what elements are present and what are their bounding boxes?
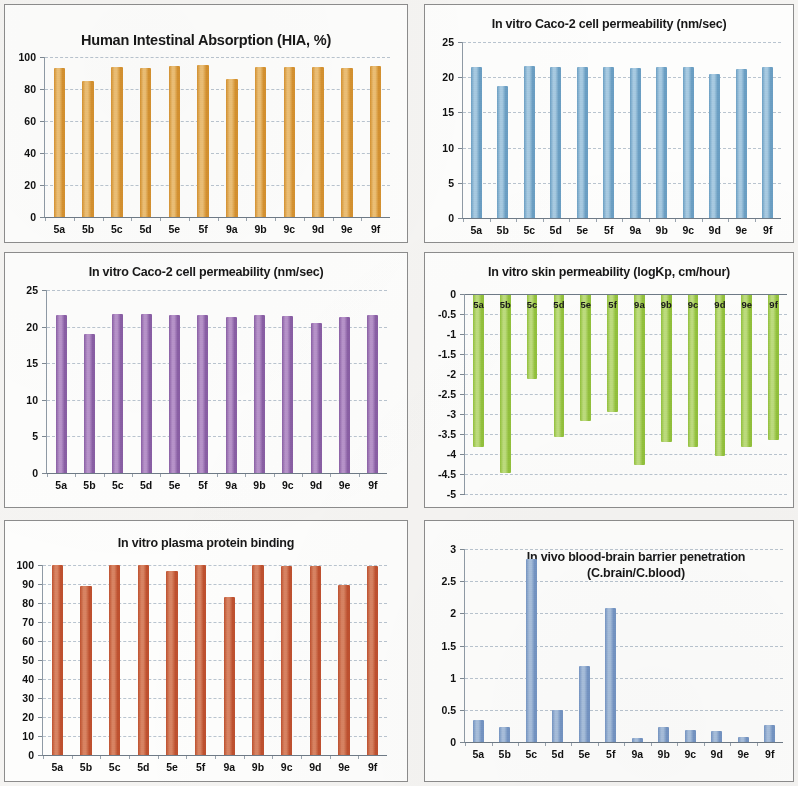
bar-texture — [80, 586, 91, 755]
gridline — [43, 584, 387, 585]
bar — [140, 68, 152, 217]
bar-texture — [762, 67, 773, 218]
bar-texture — [661, 294, 672, 442]
bar-texture — [741, 294, 752, 447]
panel-caco2-purple: In vitro Caco-2 cell permeability (nm/se… — [4, 252, 408, 508]
y-axis-tick-label: 1 — [424, 672, 456, 684]
gridline — [463, 148, 781, 149]
bar-texture — [605, 608, 616, 742]
y-tickmark — [460, 494, 465, 495]
y-axis-tick-label: -2.5 — [424, 388, 456, 400]
bar — [138, 565, 149, 755]
y-axis-tick-label: -4.5 — [424, 468, 456, 480]
bar-texture — [709, 74, 720, 218]
bar-texture — [311, 323, 322, 473]
bar — [197, 65, 209, 217]
y-axis-tick-label: 25 — [4, 284, 38, 296]
gridline — [463, 42, 781, 43]
x-axis-tick-label: 5a — [464, 299, 492, 310]
gridline — [463, 112, 781, 113]
panel-hia: Human Intestinal Absorption (HIA, %) 020… — [4, 4, 408, 243]
y-axis-tick-label: 0 — [424, 212, 454, 224]
y-axis-tick-label: -1.5 — [424, 348, 456, 360]
y-axis-tick-label: 80 — [4, 597, 34, 609]
bar-texture — [82, 81, 94, 217]
bar-texture — [526, 559, 537, 742]
bar-texture — [54, 68, 66, 217]
panel-ppb: In vitro plasma protein binding 01020304… — [4, 520, 408, 782]
chart-title-skin: In vitro skin permeability (logKp, cm/ho… — [425, 265, 793, 279]
bar-texture — [683, 67, 694, 218]
y-axis-line — [464, 549, 465, 742]
y-axis-tick-label: 60 — [4, 635, 34, 647]
y-axis-tick-label: -2 — [424, 368, 456, 380]
x-axis-tick-label: 5d — [545, 299, 573, 310]
y-axis-tick-label: 2 — [424, 607, 456, 619]
bar-texture — [685, 730, 696, 742]
x-axis-tick-label: 9f — [358, 223, 394, 235]
bar-texture — [166, 571, 177, 755]
y-axis-tick-label: 70 — [4, 616, 34, 628]
bar-texture — [112, 314, 123, 473]
gridline — [47, 363, 387, 364]
bar — [471, 67, 482, 218]
gridline — [43, 641, 387, 642]
y-axis-tick-label: 20 — [424, 71, 454, 83]
bar-texture — [658, 727, 669, 742]
bar — [254, 315, 265, 473]
y-axis-tick-label: 15 — [4, 357, 38, 369]
y-axis-tick-label: 50 — [4, 654, 34, 666]
y-axis-tick-label: 10 — [424, 142, 454, 154]
bar-texture — [339, 317, 350, 473]
bar — [577, 67, 588, 218]
gridline — [465, 334, 787, 335]
bar-texture — [282, 316, 293, 473]
panel-bbb: In vivo blood-brain barrier penetration … — [424, 520, 794, 782]
bar-texture — [367, 566, 378, 755]
bar-texture — [550, 67, 561, 218]
bar-texture — [254, 315, 265, 473]
bar-texture — [52, 565, 63, 755]
bar-texture — [500, 294, 511, 473]
bar — [226, 79, 238, 217]
bar — [112, 314, 123, 473]
y-axis-tick-label: 0 — [424, 736, 456, 748]
bar — [197, 315, 208, 473]
y-axis-tick-label: -4 — [424, 448, 456, 460]
bar-texture — [310, 566, 321, 755]
gridline — [465, 494, 787, 495]
gridline — [465, 314, 787, 315]
chart-title-ppb: In vitro plasma protein binding — [5, 536, 407, 550]
gridline — [43, 603, 387, 604]
x-axis-tick-label: 9f — [750, 224, 786, 236]
bar-texture — [367, 315, 378, 473]
bar — [524, 66, 535, 218]
bar — [683, 67, 694, 218]
bar-texture — [603, 67, 614, 218]
bar-texture — [140, 68, 152, 217]
gridline — [45, 89, 390, 90]
bar-texture — [764, 725, 775, 742]
bar — [370, 66, 382, 217]
bar — [54, 68, 66, 217]
bar — [500, 294, 511, 473]
bar — [339, 317, 350, 473]
y-axis-line — [44, 57, 45, 217]
bar-texture — [281, 566, 292, 755]
gridline — [47, 327, 387, 328]
x-axis-line — [463, 218, 781, 219]
bar — [736, 69, 747, 218]
y-axis-tick-label: 10 — [4, 394, 38, 406]
bar — [284, 67, 296, 217]
x-axis-tick-label: 9f — [760, 299, 788, 310]
bar-texture — [499, 727, 510, 742]
y-axis-tick-label: 10 — [4, 730, 34, 742]
x-axis-line — [45, 217, 390, 218]
bar-texture — [138, 565, 149, 755]
y-axis-tick-label: 80 — [4, 83, 36, 95]
bar — [84, 334, 95, 473]
gridline — [465, 474, 787, 475]
gridline — [465, 374, 787, 375]
x-axis-tick-label: 9c — [679, 299, 707, 310]
bar-texture — [338, 585, 349, 755]
